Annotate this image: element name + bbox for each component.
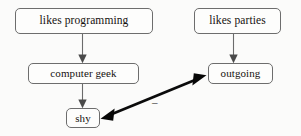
node-likes-programming[interactable]: likes programming: [15, 8, 153, 34]
arrowhead-left-icon: [101, 109, 115, 121]
node-label: likes parties: [209, 15, 266, 27]
inference-diagram: likes programming likes parties computer…: [0, 0, 301, 136]
node-computer-geek[interactable]: computer geek: [28, 63, 139, 84]
edge-label-shy-outgoing: –: [152, 97, 158, 108]
node-label: shy: [75, 113, 91, 124]
arrowhead-down-icon: [78, 100, 86, 109]
edge-likes-parties-to-outgoing: [229, 34, 237, 63]
node-shy[interactable]: shy: [66, 108, 100, 128]
node-label: likes programming: [40, 15, 129, 27]
node-likes-parties[interactable]: likes parties: [194, 8, 281, 34]
edge-computer-geek-to-shy: [78, 84, 86, 108]
node-outgoing[interactable]: outgoing: [208, 63, 273, 84]
edge-likes-programming-to-computer-geek: [78, 34, 86, 63]
arrowhead-right-icon: [192, 73, 206, 85]
arrowhead-down-icon: [229, 55, 237, 64]
node-label: computer geek: [50, 68, 116, 79]
arrowhead-down-icon: [78, 55, 86, 64]
node-label: outgoing: [221, 68, 261, 79]
